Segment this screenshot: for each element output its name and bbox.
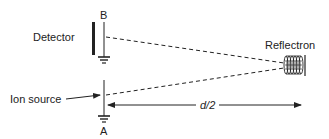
reflectron-diagram: B Detector A Ion source Reflectron — [0, 0, 329, 139]
upper-ground-icon — [98, 57, 110, 63]
point-a-label: A — [100, 125, 108, 137]
detector-label: Detector — [33, 31, 75, 43]
point-b-label: B — [100, 9, 107, 21]
ion-source-label: Ion source — [10, 93, 61, 105]
reflectron-label: Reflectron — [265, 39, 315, 51]
detector-plate — [92, 22, 95, 55]
lower-ground-icon — [98, 116, 110, 122]
ion-path-from-source — [106, 68, 284, 95]
distance-label: d/2 — [200, 99, 215, 111]
reflectron-icon — [284, 55, 305, 76]
ion-path-to-detector — [106, 37, 284, 63]
ion-source-arrow — [66, 95, 100, 99]
